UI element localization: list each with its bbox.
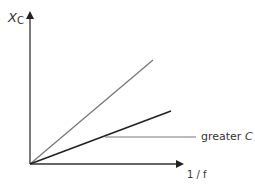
line-smaller-c (30, 60, 153, 164)
x-axis-label: 1 / f (187, 169, 207, 180)
y-axis-label: XC (8, 10, 24, 26)
graph-canvas (0, 0, 255, 192)
greater-c-annotation: greater C (201, 130, 253, 143)
